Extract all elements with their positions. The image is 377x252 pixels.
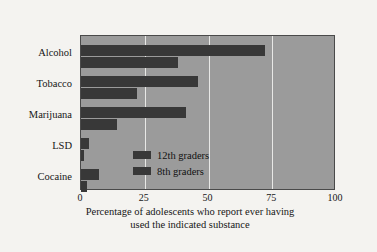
x-axis-tick-label: 25	[139, 192, 149, 204]
bar-cocaine-12th	[81, 169, 99, 180]
legend-label: 12th graders	[157, 150, 209, 161]
y-axis-tick-label: Tobacco	[37, 78, 72, 89]
y-axis-tick-label: Alcohol	[38, 47, 72, 58]
x-axis-labels: 0 25 50 75 100	[80, 192, 335, 206]
gridline-75	[272, 36, 273, 189]
figure-container: Alcohol Tobacco Marijuana LSD Cocaine	[0, 0, 377, 252]
caption-line-1: Percentage of adolescents who report eve…	[40, 206, 340, 219]
bar-cocaine-8th	[81, 181, 87, 192]
bar-alcohol-12th	[81, 45, 265, 56]
y-axis-tick-label: Marijuana	[29, 109, 72, 120]
x-axis-title: Percentage of adolescents who report eve…	[40, 206, 340, 231]
bar-lsd-8th	[81, 150, 84, 161]
chart-legend: 12th graders 8th graders	[133, 148, 253, 180]
bar-tobacco-12th	[81, 76, 198, 87]
legend-swatch-icon	[133, 167, 151, 175]
bar-marijuana-12th	[81, 107, 186, 118]
x-axis-tick-label: 100	[328, 192, 343, 204]
caption-line-2: used the indicated substance	[40, 219, 340, 232]
x-axis-tick-label: 50	[203, 192, 213, 204]
bar-alcohol-8th	[81, 57, 178, 68]
x-axis-tick-label: 0	[78, 192, 83, 204]
y-axis-labels: Alcohol Tobacco Marijuana LSD Cocaine	[0, 35, 76, 190]
legend-label: 8th graders	[157, 166, 204, 177]
legend-swatch-icon	[133, 151, 151, 159]
legend-item-12th-graders: 12th graders	[133, 148, 253, 162]
y-axis-tick-label: Cocaine	[38, 171, 72, 182]
bar-lsd-12th	[81, 138, 89, 149]
bar-tobacco-8th	[81, 88, 137, 99]
bar-marijuana-8th	[81, 119, 117, 130]
legend-item-8th-graders: 8th graders	[133, 164, 253, 178]
y-axis-tick-label: LSD	[52, 140, 72, 151]
plot-area: 12th graders 8th graders	[80, 35, 335, 190]
x-axis-tick-label: 75	[266, 192, 276, 204]
